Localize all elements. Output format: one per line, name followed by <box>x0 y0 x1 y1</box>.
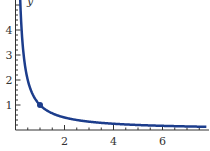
y-tick-label: 2 <box>6 74 13 87</box>
curve-reciprocal <box>20 0 206 127</box>
x-tick-label: 6 <box>159 135 166 148</box>
axes <box>16 0 210 130</box>
plot-area: y 246 1234 <box>0 0 209 151</box>
y-tick-label: 4 <box>6 24 13 37</box>
x-tick-labels: 246 <box>61 135 166 148</box>
y-tick-labels: 1234 <box>6 24 13 112</box>
y-axis-label: y <box>26 0 34 8</box>
highlight-point <box>37 102 43 108</box>
x-tick-label: 4 <box>110 135 117 148</box>
y-tick-label: 1 <box>6 99 13 112</box>
y-tick-label: 3 <box>6 49 13 62</box>
x-tick-label: 2 <box>61 135 68 148</box>
